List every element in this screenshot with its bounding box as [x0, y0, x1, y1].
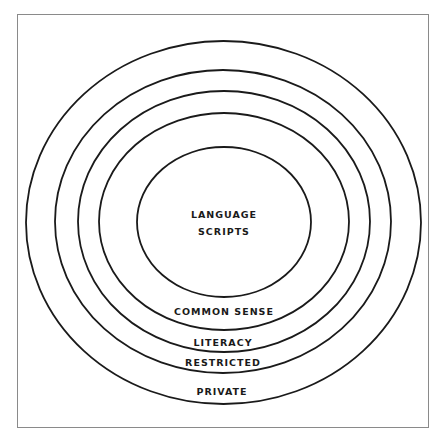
label-language: LANGUAGE	[191, 209, 257, 220]
label-restricted: RESTRICTED	[185, 357, 261, 368]
label-private: PRIVATE	[196, 386, 247, 397]
label-scripts: SCRIPTS	[198, 226, 250, 237]
ring-restricted	[55, 70, 391, 373]
concentric-diagram: LANGUAGE SCRIPTS COMMON SENSE LITERACY R…	[0, 0, 441, 440]
label-literacy: LITERACY	[193, 337, 252, 348]
ring-language-scripts	[137, 147, 311, 297]
label-common-sense: COMMON SENSE	[174, 306, 274, 317]
ring-private	[26, 41, 421, 404]
